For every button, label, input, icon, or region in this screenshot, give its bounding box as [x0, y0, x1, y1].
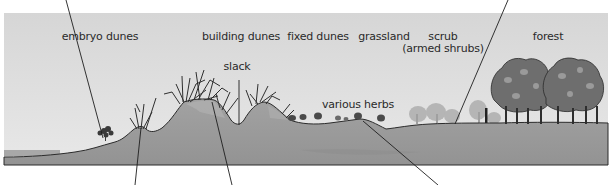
label-slack: slack [224, 60, 251, 73]
diagram-canvas [0, 0, 612, 185]
label-scrub-sub: (armed shrubs) [402, 42, 484, 55]
label-fixed-dunes: fixed dunes [287, 30, 349, 43]
label-building-dunes: building dunes [202, 30, 280, 43]
label-various-herbs: various herbs [322, 98, 394, 111]
label-forest: forest [533, 30, 564, 43]
dune-succession-diagram: embryo dunesbuilding dunesfixed dunesgra… [0, 0, 612, 185]
label-embryo-dunes: embryo dunes [62, 30, 139, 43]
